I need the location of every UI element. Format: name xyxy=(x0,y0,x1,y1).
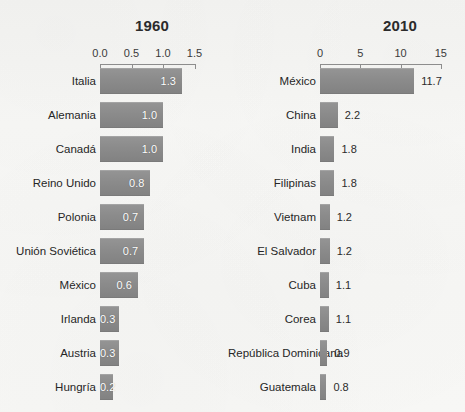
bar-row[interactable]: Vietnam1.2 xyxy=(228,204,465,230)
bar-row[interactable]: Guatemala0.8 xyxy=(228,374,465,400)
axis-tick-label: 1.0 xyxy=(155,47,170,59)
bar-value-label: 1.8 xyxy=(341,136,356,162)
bar-value-label: 1.0 xyxy=(100,136,157,162)
bar[interactable] xyxy=(320,170,334,196)
bar-row[interactable]: Alemania1.0 xyxy=(0,102,228,128)
bar-category-label: Hungría xyxy=(0,374,96,400)
bar-category-label: Filipinas xyxy=(228,170,316,196)
bar-value-label: 0.3 xyxy=(100,340,114,366)
bar-category-label: Alemania xyxy=(0,102,96,128)
bar-row[interactable]: Hungría0.2 xyxy=(0,374,228,400)
axis-tick-label: 0 xyxy=(317,47,323,59)
bar-category-label: Austria xyxy=(0,340,96,366)
bar-row[interactable]: Filipinas1.8 xyxy=(228,170,465,196)
bar-row[interactable]: Reino Unido0.8 xyxy=(0,170,228,196)
bar-category-label: Vietnam xyxy=(228,204,316,230)
bar[interactable] xyxy=(320,102,338,128)
axis-tick-label: 0.5 xyxy=(124,47,139,59)
bar-row[interactable]: China2.2 xyxy=(228,102,465,128)
axis-tick-label: 15 xyxy=(435,47,447,59)
chart-panel-1960: 1960 0.00.51.01.5 Italia1.3Alemania1.0Ca… xyxy=(0,0,228,412)
bar-row[interactable]: México0.6 xyxy=(0,272,228,298)
bar-category-label: Unión Soviética xyxy=(0,238,96,264)
bar-value-label: 1.2 xyxy=(337,238,352,264)
bar-row[interactable]: Unión Soviética0.7 xyxy=(0,238,228,264)
bar-category-label: Corea xyxy=(228,306,316,332)
axis-tick-label: 5 xyxy=(357,47,363,59)
bar-value-label: 0.9 xyxy=(334,340,349,366)
axis-line xyxy=(320,64,441,65)
bar-value-label: 0.2 xyxy=(100,374,114,400)
bar-row[interactable]: Irlanda0.3 xyxy=(0,306,228,332)
bar-category-label: Cuba xyxy=(228,272,316,298)
bar-category-label: India xyxy=(228,136,316,162)
bar[interactable] xyxy=(320,272,329,298)
bar[interactable] xyxy=(320,68,414,94)
bar-category-label: Irlanda xyxy=(0,306,96,332)
bar-category-label: Guatemala xyxy=(228,374,316,400)
bar-row[interactable]: Polonia0.7 xyxy=(0,204,228,230)
bar[interactable] xyxy=(320,238,330,264)
bar-value-label: 11.7 xyxy=(421,68,442,94)
bar-row[interactable]: Italia1.3 xyxy=(0,68,228,94)
bar-category-label: El Salvador xyxy=(228,238,316,264)
axis-tick-label: 1.5 xyxy=(187,47,202,59)
bar-category-label: Italia xyxy=(0,68,96,94)
bar-row[interactable]: México11.7 xyxy=(228,68,465,94)
bar-row[interactable]: El Salvador1.2 xyxy=(228,238,465,264)
chart-panel-2010: 2010 051015 México11.7China2.2India1.8Fi… xyxy=(228,0,465,412)
bar-value-label: 0.7 xyxy=(100,204,138,230)
axis-tick-label: 0.0 xyxy=(92,47,107,59)
bar-category-label: México xyxy=(228,68,316,94)
charts-container: 1960 0.00.51.01.5 Italia1.3Alemania1.0Ca… xyxy=(0,0,465,412)
bar-row[interactable]: Austria0.3 xyxy=(0,340,228,366)
bar-category-label: República Dominicana xyxy=(228,340,316,366)
bar-value-label: 1.8 xyxy=(341,170,356,196)
bar-row[interactable]: República Dominicana0.9 xyxy=(228,340,465,366)
bar[interactable] xyxy=(320,374,326,400)
bar-row[interactable]: Cuba1.1 xyxy=(228,272,465,298)
bar[interactable] xyxy=(320,204,330,230)
bar-category-label: Reino Unido xyxy=(0,170,96,196)
bar-row[interactable]: Canadá1.0 xyxy=(0,136,228,162)
bar-value-label: 0.8 xyxy=(333,374,348,400)
bar[interactable] xyxy=(320,306,329,332)
bar-value-label: 1.3 xyxy=(100,68,176,94)
bar-value-label: 2.2 xyxy=(345,102,360,128)
axis-line xyxy=(100,64,195,65)
bar-value-label: 1.0 xyxy=(100,102,157,128)
bar-value-label: 1.1 xyxy=(336,272,351,298)
bar[interactable] xyxy=(320,340,327,366)
bar-row[interactable]: India1.8 xyxy=(228,136,465,162)
bar-value-label: 0.7 xyxy=(100,238,138,264)
bar-category-label: México xyxy=(0,272,96,298)
bar-category-label: Polonia xyxy=(0,204,96,230)
bar-value-label: 0.6 xyxy=(100,272,132,298)
bar-value-label: 0.3 xyxy=(100,306,114,332)
axis-tick-label: 10 xyxy=(394,47,406,59)
bar-value-label: 1.2 xyxy=(337,204,352,230)
bar-category-label: Canadá xyxy=(0,136,96,162)
bar-category-label: China xyxy=(228,102,316,128)
bar-value-label: 0.8 xyxy=(100,170,144,196)
bar[interactable] xyxy=(320,136,334,162)
bar-row[interactable]: Corea1.1 xyxy=(228,306,465,332)
bar-value-label: 1.1 xyxy=(336,306,351,332)
